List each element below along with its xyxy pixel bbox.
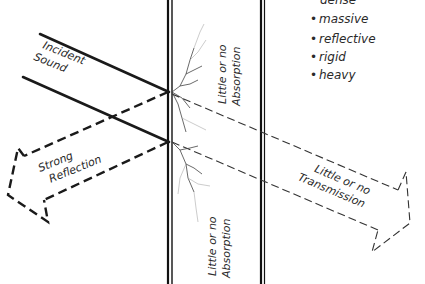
absorption-top-line1: Little or no xyxy=(216,44,229,104)
property-item: • rigid xyxy=(310,50,346,64)
incident-label: Incident Sound xyxy=(32,37,88,80)
bullet-icon: • xyxy=(310,50,317,64)
property-item: • massive xyxy=(310,12,368,26)
wall-absorption-cracks xyxy=(172,24,210,222)
absorption-label-top: Little or no Absorption xyxy=(216,44,243,107)
absorption-top-line2: Absorption xyxy=(230,46,243,107)
property-label: massive xyxy=(319,12,368,26)
absorption-label-bottom: Little or no Absorption xyxy=(206,216,233,279)
property-item: • reflective xyxy=(310,32,376,46)
bullet-icon: • xyxy=(310,68,317,82)
property-label: heavy xyxy=(319,68,356,82)
bullet-icon: • xyxy=(310,32,317,46)
property-label: rigid xyxy=(319,50,346,64)
property-partial: dense xyxy=(320,0,356,7)
diagram-canvas: Incident Sound Strong Reflection Little … xyxy=(0,0,425,284)
bullet-icon: • xyxy=(310,12,317,26)
property-item: • heavy xyxy=(310,68,356,82)
transmission-label: Little or no Transmission xyxy=(296,158,373,211)
properties-list: dense • massive • reflective • rigid • h… xyxy=(310,0,376,82)
absorption-bottom-line1: Little or no xyxy=(206,216,219,276)
property-label: reflective xyxy=(319,32,376,46)
absorption-bottom-line2: Absorption xyxy=(220,218,233,279)
